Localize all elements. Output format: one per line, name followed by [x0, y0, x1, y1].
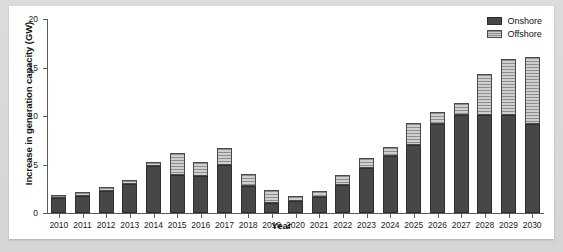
x-axis-tick — [201, 214, 202, 218]
bar-group[interactable] — [170, 153, 185, 213]
bar-group[interactable] — [146, 162, 161, 213]
x-axis-tick — [225, 214, 226, 218]
bar-segment-onshore[interactable] — [146, 166, 161, 213]
legend-swatch-offshore-icon — [487, 30, 502, 38]
bar-segment-onshore[interactable] — [51, 198, 66, 213]
bar-group[interactable] — [312, 191, 327, 213]
bar-group[interactable] — [501, 59, 516, 213]
bar-group[interactable] — [241, 174, 256, 213]
x-axis-tick — [319, 214, 320, 218]
chart-legend: Onshore Offshore — [483, 12, 546, 44]
x-axis-tick — [485, 214, 486, 218]
legend-item-offshore: Offshore — [487, 28, 542, 40]
bars-layer — [47, 19, 544, 214]
bar-segment-onshore[interactable] — [501, 115, 516, 213]
bar-segment-offshore[interactable] — [288, 196, 303, 202]
x-axis-tick — [367, 214, 368, 218]
x-axis-tick — [248, 214, 249, 218]
bar-segment-offshore[interactable] — [501, 59, 516, 115]
y-axis-tick-label: 0 — [12, 208, 38, 218]
bar-segment-onshore[interactable] — [430, 124, 445, 213]
bar-segment-offshore[interactable] — [312, 191, 327, 198]
bar-group[interactable] — [383, 147, 398, 213]
bar-segment-onshore[interactable] — [335, 185, 350, 213]
x-axis-tick — [296, 214, 297, 218]
x-axis-tick — [59, 214, 60, 218]
bar-segment-offshore[interactable] — [217, 148, 232, 164]
bar-segment-onshore[interactable] — [383, 156, 398, 213]
bar-segment-onshore[interactable] — [264, 203, 279, 213]
bar-segment-offshore[interactable] — [51, 195, 66, 199]
y-axis-tick-label: 20 — [12, 14, 38, 24]
bar-group[interactable] — [122, 180, 137, 213]
bar-segment-offshore[interactable] — [406, 123, 421, 145]
bar-group[interactable] — [217, 148, 232, 213]
x-axis-tick — [154, 214, 155, 218]
x-axis-tick — [390, 214, 391, 218]
bar-segment-offshore[interactable] — [146, 162, 161, 167]
bar-segment-onshore[interactable] — [193, 176, 208, 213]
x-axis-tick — [509, 214, 510, 218]
bar-segment-offshore[interactable] — [241, 174, 256, 186]
bar-segment-onshore[interactable] — [241, 186, 256, 213]
bar-segment-offshore[interactable] — [454, 103, 469, 115]
bar-segment-offshore[interactable] — [477, 74, 492, 115]
x-axis-tick — [106, 214, 107, 218]
bar-segment-offshore[interactable] — [170, 153, 185, 175]
bar-segment-onshore[interactable] — [75, 196, 90, 213]
x-axis-tick — [414, 214, 415, 218]
bar-segment-offshore[interactable] — [335, 175, 350, 185]
bar-segment-onshore[interactable] — [359, 168, 374, 213]
bar-segment-onshore[interactable] — [170, 175, 185, 213]
bar-segment-offshore[interactable] — [383, 147, 398, 156]
bar-group[interactable] — [99, 187, 114, 213]
bar-segment-offshore[interactable] — [193, 162, 208, 177]
bar-segment-offshore[interactable] — [430, 112, 445, 124]
legend-label-offshore: Offshore — [507, 29, 541, 39]
x-axis-tick — [461, 214, 462, 218]
bar-segment-offshore[interactable] — [359, 158, 374, 169]
y-axis-tick-label: 15 — [12, 63, 38, 73]
bar-group[interactable] — [477, 74, 492, 213]
x-axis-tick — [343, 214, 344, 218]
bar-segment-onshore[interactable] — [525, 124, 540, 213]
bar-group[interactable] — [288, 196, 303, 213]
x-axis-tick — [130, 214, 131, 218]
bar-group[interactable] — [525, 57, 540, 213]
bar-group[interactable] — [406, 123, 421, 213]
bar-segment-offshore[interactable] — [75, 192, 90, 196]
bar-segment-onshore[interactable] — [288, 201, 303, 213]
bar-group[interactable] — [454, 103, 469, 213]
bar-segment-offshore[interactable] — [264, 190, 279, 204]
x-axis-tick — [177, 214, 178, 218]
bar-group[interactable] — [75, 192, 90, 213]
y-axis-tick-label: 5 — [12, 160, 38, 170]
y-axis-title: Increase in generation capacity (GW) — [23, 9, 34, 199]
legend-label-onshore: Onshore — [507, 16, 542, 26]
bar-group[interactable] — [193, 162, 208, 213]
x-axis-tick — [83, 214, 84, 218]
bar-segment-onshore[interactable] — [477, 115, 492, 213]
bar-segment-onshore[interactable] — [99, 191, 114, 213]
bar-group[interactable] — [51, 195, 66, 213]
y-axis-tick-label: 10 — [12, 111, 38, 121]
x-axis-tick-label: 2030 — [517, 220, 547, 230]
bar-segment-offshore[interactable] — [99, 187, 114, 191]
bar-segment-onshore[interactable] — [406, 145, 421, 213]
legend-item-onshore: Onshore — [487, 15, 542, 27]
bar-segment-onshore[interactable] — [312, 197, 327, 213]
x-axis-tick — [438, 214, 439, 218]
x-axis-tick — [272, 214, 273, 218]
bar-segment-onshore[interactable] — [217, 165, 232, 214]
bar-segment-onshore[interactable] — [122, 184, 137, 213]
bar-group[interactable] — [264, 190, 279, 213]
bar-group[interactable] — [430, 112, 445, 213]
bar-group[interactable] — [335, 175, 350, 213]
bar-segment-offshore[interactable] — [122, 180, 137, 184]
bar-segment-offshore[interactable] — [525, 57, 540, 124]
x-axis-tick — [532, 214, 533, 218]
plot-area: 05101520 2010201120122013201420152016201… — [47, 19, 544, 214]
bar-segment-onshore[interactable] — [454, 115, 469, 213]
legend-swatch-onshore-icon — [487, 17, 502, 25]
bar-group[interactable] — [359, 158, 374, 213]
